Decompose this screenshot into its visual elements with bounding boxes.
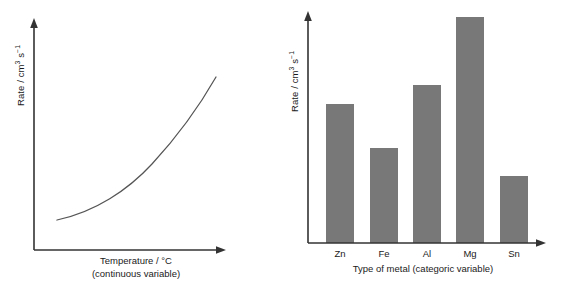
line-chart-x-axis-title: Temperature / °C (continuous variable)	[46, 255, 226, 280]
bar-chart-y-axis-title-sup-time: −1	[288, 51, 295, 59]
bar-chart-tick-label-fe: Fe	[364, 248, 404, 259]
bar-chart-tick-label-sn: Sn	[494, 248, 534, 259]
line-chart-x-axis-title-line2: (continuous variable)	[46, 268, 226, 281]
bar-chart-y-axis-title: Rate / cm3 s−1	[289, 51, 301, 112]
line-chart-panel: Rate / cm3 s−1 Temperature / °C (continu…	[0, 0, 283, 298]
bar-chart-y-axis-title-sup-volume: 3	[288, 67, 295, 71]
bar-chart-tick-label-al: Al	[407, 248, 447, 259]
line-chart-y-axis-title-sup-volume: 3	[14, 61, 21, 65]
line-chart-axes-and-curve	[0, 0, 283, 298]
line-chart-curve	[57, 77, 216, 220]
bar-chart-panel: Rate / cm3 s−1 Zn Fe Al Mg Sn Type of me…	[283, 0, 566, 298]
bar-chart-y-axis-title-text: Rate / cm	[289, 70, 300, 112]
bar-al	[413, 85, 441, 243]
line-chart-y-axis-title: Rate / cm3 s−1	[15, 45, 27, 106]
line-chart-x-axis-arrow-icon	[216, 246, 226, 254]
bar-chart-tick-label-zn: Zn	[320, 248, 360, 259]
bar-fe	[370, 148, 398, 243]
bar-sn	[500, 176, 528, 243]
bar-chart-y-axis-arrow-icon	[304, 11, 312, 21]
bar-chart-x-axis-arrow-icon	[536, 239, 546, 247]
bar-chart-y-axis-title-mid: s	[289, 59, 300, 67]
bar-zn	[326, 104, 354, 243]
bar-mg	[456, 17, 484, 243]
line-chart-y-axis-title-mid: s	[15, 53, 26, 61]
line-chart-y-axis-title-sup-time: −1	[14, 45, 21, 53]
line-chart-x-axis-title-line1: Temperature / °C	[100, 255, 172, 266]
bar-chart-tick-label-mg: Mg	[450, 248, 490, 259]
line-chart-y-axis-arrow-icon	[30, 18, 38, 28]
bar-chart-x-axis-title: Type of metal (categoric variable)	[308, 263, 538, 276]
line-chart-y-axis-title-text: Rate / cm	[15, 64, 26, 106]
figure-two-charts: Rate / cm3 s−1 Temperature / °C (continu…	[0, 0, 566, 298]
